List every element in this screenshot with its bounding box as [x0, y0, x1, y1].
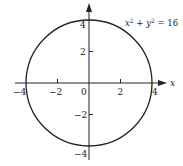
equation-rhs: = 16: [155, 18, 178, 28]
x-axis-arrow-icon: [158, 80, 167, 86]
x-tick-label-neg2: −2: [49, 87, 62, 97]
equation-plus: +: [134, 18, 147, 28]
equation-annotation: x2 + y2 = 16: [125, 17, 178, 28]
y-tick-label-pos2: 2: [80, 47, 86, 57]
y-tick-label-neg2: −2: [74, 110, 87, 120]
circle-plot: x −4 −2 0 2 4 4 2 −2 −4 x2 + y2 = 16: [0, 0, 183, 166]
x-axis-label: x: [170, 78, 175, 88]
y-axis-arrow-icon: [86, 3, 92, 12]
x-tick-label-pos4: 4: [152, 87, 158, 97]
y-tick-label-neg4: −4: [74, 149, 88, 159]
origin-label: 0: [81, 87, 87, 97]
x-tick-label-pos2: 2: [118, 87, 124, 97]
x-tick-label-neg4: −4: [13, 87, 27, 97]
y-tick-label-pos4: 4: [80, 20, 86, 30]
